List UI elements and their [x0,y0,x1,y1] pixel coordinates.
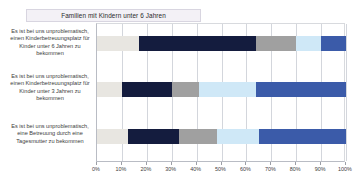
bar-segment [122,82,172,97]
bar-segment [97,82,122,97]
bar-segment [256,36,296,51]
x-tick-label: 50% [215,166,226,172]
bar-segment [139,36,256,51]
bar-row [97,129,344,144]
bar-series-container [97,24,344,161]
x-tick [96,162,97,165]
bar-segment [199,82,256,97]
x-tick [221,162,222,165]
bar-segment [179,129,216,144]
x-tick-label: 30% [165,166,176,172]
bar-row [97,36,344,51]
x-tick-label: 70% [265,166,276,172]
bar-segment [296,36,321,51]
x-tick [245,162,246,165]
bar-segment [97,36,139,51]
x-axis: 0%10%20%30%40%50%60%70%80%90%100% [96,162,345,182]
x-tick-label: 40% [190,166,201,172]
category-label-2: Es ist bei uns unproblematisch, eine Bet… [6,123,94,145]
x-tick [320,162,321,165]
bar-segment [97,129,128,144]
x-tick-label: 0% [92,166,100,172]
x-tick-label: 10% [115,166,126,172]
gridline-100 [346,24,347,161]
bar-segment [172,82,199,97]
x-tick [270,162,271,165]
x-tick [146,162,147,165]
bar-row [97,82,344,97]
plot-area [96,23,345,162]
bar-segment [321,36,346,51]
x-tick [345,162,346,165]
x-tick-label: 60% [240,166,251,172]
x-tick [171,162,172,165]
bar-segment [128,129,179,144]
category-label-1: Es ist bei uns unproblematisch, einen Ki… [6,73,94,103]
x-tick [121,162,122,165]
chart-title: Familien mit Kindern unter 6 Jahren [61,12,166,19]
bar-segment [256,82,346,97]
x-tick [295,162,296,165]
x-tick-label: 100% [338,166,352,172]
bar-segment [259,129,346,144]
x-tick-label: 80% [290,166,301,172]
chart-title-box: Familien mit Kindern unter 6 Jahren [26,9,201,22]
bar-segment [217,129,259,144]
x-tick [196,162,197,165]
x-tick-label: 90% [315,166,326,172]
x-tick-label: 20% [140,166,151,172]
category-axis-labels: Es ist bei uns unproblematisch, einen Ki… [4,23,94,162]
chart-root: Familien mit Kindern unter 6 Jahren Es i… [0,0,361,187]
category-label-0: Es ist bei uns unproblematisch, einen Ki… [6,28,94,58]
